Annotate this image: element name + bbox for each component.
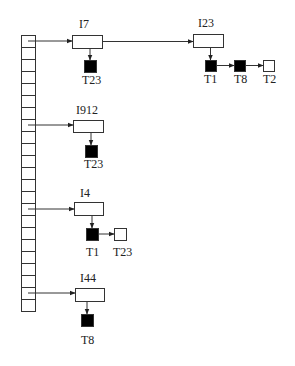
entry-box	[75, 203, 104, 216]
filled-posting-node	[86, 146, 98, 158]
index-entry-i44: I44T8	[76, 271, 105, 347]
hash-table-cell	[22, 264, 36, 276]
entry-label: I912	[76, 103, 98, 117]
posting-label: T1	[86, 245, 99, 259]
index-entry-i912: I912T23	[74, 103, 104, 171]
index-entry-i7: I7T23	[73, 17, 103, 87]
hash-table-cell	[22, 228, 36, 240]
posting-label: T23	[82, 73, 101, 87]
filled-posting-node	[82, 315, 94, 327]
index-entries: I7T23I23T1T8T2I912T23I4T1T23I44T8	[73, 16, 277, 347]
hash-table-cell	[22, 72, 36, 84]
hash-table-cell	[22, 168, 36, 180]
hash-table-cell	[22, 180, 36, 192]
hash-table-cell	[22, 240, 36, 252]
posting-label: T2	[263, 72, 276, 86]
hash-table-cell	[22, 276, 36, 288]
hash-table-cell	[22, 252, 36, 264]
links	[28, 41, 263, 314]
posting-label: T8	[81, 333, 94, 347]
hash-table-cell	[22, 108, 36, 120]
entry-box	[76, 289, 105, 302]
entry-label: I4	[80, 186, 90, 200]
filled-posting-node	[235, 61, 246, 72]
hash-table-cell	[22, 60, 36, 72]
filled-posting-node	[206, 61, 217, 72]
filled-posting-node	[87, 229, 99, 241]
hash-table-cell	[22, 216, 36, 228]
hash-table-cell	[22, 192, 36, 204]
entry-box	[73, 36, 103, 49]
index-entry-i4: I4T1T23	[75, 186, 133, 259]
hash-table-cell	[22, 132, 36, 144]
hash-table-cell	[22, 48, 36, 60]
entry-label: I44	[80, 271, 96, 285]
hash-table	[22, 36, 36, 312]
entry-box	[194, 35, 224, 48]
posting-label: T23	[113, 245, 132, 259]
empty-posting-node	[264, 61, 275, 72]
entry-box	[74, 121, 104, 133]
entry-label: I23	[198, 16, 214, 30]
inverted-index-diagram: I7T23I23T1T8T2I912T23I4T1T23I44T8	[0, 0, 295, 366]
entry-label: I7	[79, 17, 89, 31]
index-entry-i23: I23T1T8T2	[194, 16, 277, 86]
hash-table-cell	[22, 144, 36, 156]
filled-posting-node	[85, 61, 97, 73]
diagram-svg: I7T23I23T1T8T2I912T23I4T1T23I44T8	[0, 0, 295, 366]
hash-table-cell	[22, 156, 36, 168]
hash-table-cell	[22, 300, 36, 312]
posting-label: T23	[84, 157, 103, 171]
posting-label: T8	[234, 72, 247, 86]
hash-table-cell	[22, 84, 36, 96]
hash-table-cell	[22, 96, 36, 108]
posting-label: T1	[204, 72, 217, 86]
empty-posting-node	[115, 229, 127, 241]
